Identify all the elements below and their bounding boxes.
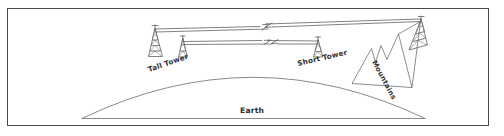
diagram-canvas: Tall Tower Short Tower Mountains Earth	[0, 0, 504, 136]
propagation-diagram: Tall Tower Short Tower Mountains Earth	[0, 0, 504, 136]
label-earth: Earth	[240, 106, 264, 115]
short-path-return-left	[183, 44, 272, 45]
